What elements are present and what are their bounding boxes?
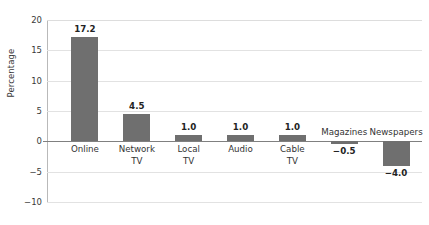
category-label-audio: Audio	[228, 144, 253, 156]
value-label-network-tv: 4.5	[129, 101, 144, 111]
y-tick-label: 20	[12, 15, 42, 25]
value-label-audio: 1.0	[233, 122, 248, 132]
y-tick-label: −5	[12, 167, 42, 177]
plot-area: 17.2Online4.5Network TV1.0Local TV1.0Aud…	[47, 20, 422, 202]
category-label-local-tv: Local TV	[177, 144, 200, 167]
y-tick-label: 15	[12, 45, 42, 55]
y-tick-label: 0	[12, 136, 42, 146]
category-label-network-tv: Network TV	[119, 144, 155, 167]
category-label-online: Online	[71, 144, 99, 156]
bar-magazines	[331, 141, 358, 144]
zero-axis-line	[47, 141, 422, 142]
bar-online	[71, 37, 98, 141]
gridline-20	[47, 20, 422, 21]
value-label-cable-tv: 1.0	[285, 122, 300, 132]
bar-audio	[227, 135, 254, 141]
gridline-15	[47, 50, 422, 51]
y-tick-label: 10	[12, 76, 42, 86]
gridline--10	[47, 202, 422, 203]
value-label-online: 17.2	[74, 24, 95, 34]
y-tick-label: −10	[12, 197, 42, 207]
value-label-local-tv: 1.0	[181, 122, 196, 132]
y-axis-tick-labels: 20151050−5−10	[10, 20, 42, 202]
value-label-magazines: −0.5	[333, 146, 356, 156]
gridline-10	[47, 81, 422, 82]
category-label-magazines: Magazines	[321, 127, 367, 139]
category-label-newspapers: Newspapers	[369, 127, 422, 139]
bar-chart: Percentage 20151050−5−10 17.2Online4.5Ne…	[0, 0, 429, 225]
bar-network-tv	[123, 114, 150, 141]
y-tick-label: 5	[12, 106, 42, 116]
gridline-5	[47, 111, 422, 112]
category-label-cable-tv: Cable TV	[280, 144, 305, 167]
y-axis-zero-tick	[43, 141, 47, 142]
gridline--5	[47, 172, 422, 173]
value-label-newspapers: −4.0	[385, 168, 408, 178]
bar-cable-tv	[279, 135, 306, 141]
bar-newspapers	[383, 141, 410, 165]
bar-local-tv	[175, 135, 202, 141]
